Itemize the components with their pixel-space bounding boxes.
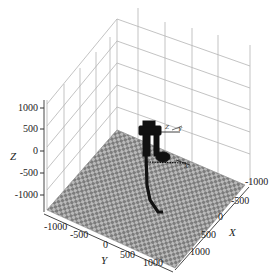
y-tick: 500 (120, 249, 135, 260)
z-axis-label: Z (10, 150, 17, 162)
y-axis-label: Y (101, 254, 109, 266)
frame-z-label: Z (165, 123, 169, 131)
z-tick: -1000 (15, 189, 38, 200)
frame-y-label: Y (178, 125, 183, 133)
y-tick: 1000 (143, 257, 163, 268)
z-tick: 1000 (18, 102, 38, 113)
z-tick: 0 (33, 145, 38, 156)
y-tick: -1000 (44, 221, 67, 232)
x-tick: 0 (218, 211, 223, 222)
x-axis-label: X (228, 226, 237, 238)
frame-x-label: X (183, 162, 189, 170)
x-tick: -1000 (245, 176, 268, 187)
x-tick: -500 (231, 195, 249, 206)
y-tick: 0 (103, 239, 108, 250)
3d-plot: Y X Z 1000 500 0 -500 -1000 Z -1000 -500… (0, 0, 278, 278)
x-tick: 1000 (190, 246, 210, 257)
y-tick: -500 (70, 229, 88, 240)
z-axis: 1000 500 0 -500 -1000 Z (10, 102, 44, 200)
z-tick: 500 (23, 123, 38, 134)
z-tick: -500 (20, 167, 38, 178)
x-tick: 500 (201, 229, 216, 240)
